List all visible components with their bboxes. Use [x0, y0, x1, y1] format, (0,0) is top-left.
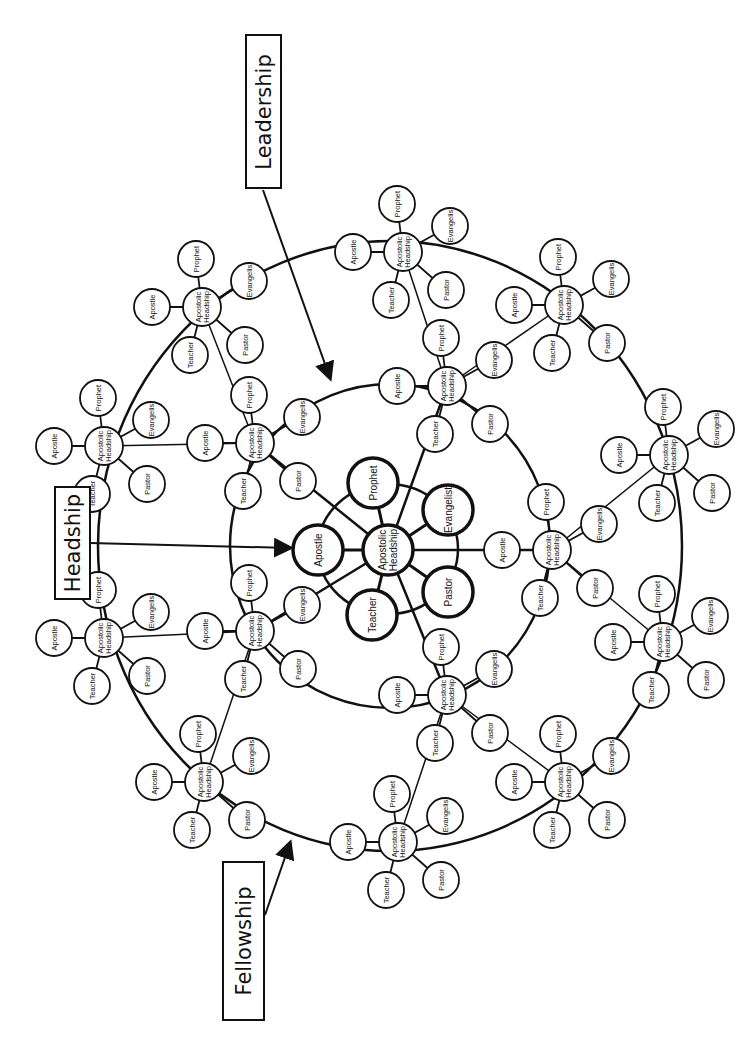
- fellowship-cluster-8-evangelist: Evangelis: [698, 411, 734, 447]
- leadership-cluster-1-hub-label: ApostolicHeadship: [247, 615, 264, 647]
- fellowship-cluster-5-prophet: Prophet: [374, 776, 410, 812]
- leadership-cluster-3-hub-label: ApostolicHeadship: [439, 679, 456, 711]
- fellowship-cluster-2-prophet-label: Prophet: [192, 245, 201, 272]
- fellowship-cluster-5-apostle-label: Apostle: [344, 829, 353, 854]
- fellowship-cluster-3-apostle: Apostle: [136, 764, 172, 800]
- leadership-cluster-4-hub-label: ApostolicHeadship: [544, 534, 561, 566]
- fellowship-cluster-2-prophet: Prophet: [178, 241, 214, 277]
- fellowship-cluster-6-hub: ApostolicHeadship: [545, 286, 583, 324]
- leadership-cluster-0-evangelist-label: Evangelis: [298, 400, 307, 433]
- fellowship-cluster-6-evangelist-label: Evangelis: [607, 262, 616, 295]
- leadership-cluster-1-prophet: Prophet: [231, 565, 267, 601]
- fellowship-cluster-8-prophet-label: Prophet: [659, 393, 668, 420]
- fellowship-cluster-0-evangelist-label: Evangelis: [147, 403, 156, 436]
- fellowship-cluster-2-apostle-label: Apostle: [148, 294, 157, 319]
- fellowship-cluster-2-hub-label: ApostolicHeadship: [194, 291, 211, 323]
- fellowship-cluster-7-teacher-label: Teacher: [548, 816, 557, 843]
- fellowship-cluster-6-pastor-label: Pastor: [603, 332, 612, 354]
- fellowship-cluster-0-prophet: Prophet: [80, 380, 116, 416]
- headship-arrow: [90, 543, 290, 548]
- leadership-cluster-3-prophet: Prophet: [423, 629, 459, 665]
- fellowship-cluster-9-pastor-label: Pastor: [702, 669, 711, 691]
- fellowship-cluster-7-teacher: Teacher: [534, 812, 570, 848]
- fellowship-cluster-2-pastor-label: Pastor: [241, 334, 250, 356]
- fellowship-cluster-3-prophet: Prophet: [180, 716, 216, 752]
- leadership-cluster-0-prophet: Prophet: [231, 377, 267, 413]
- center-evangelist: Evangelist: [423, 485, 473, 535]
- fellowship-cluster-4-teacher: Teacher: [373, 282, 409, 318]
- fellowship-cluster-9-hub-label: ApostolicHeadship: [655, 626, 672, 658]
- fellowship-cluster-7-evangelist: Evangelis: [593, 738, 629, 774]
- leadership-arrow: [263, 190, 330, 378]
- headship-label: Headship: [61, 494, 85, 592]
- fellowship-cluster-7-apostle: Apostle: [496, 764, 532, 800]
- fellowship-cluster-1-hub: ApostolicHeadship: [85, 619, 123, 657]
- leadership-cluster-4-apostle-label: Apostle: [498, 537, 507, 562]
- fellowship-cluster-2-apostle: Apostle: [134, 289, 170, 325]
- fellowship-cluster-6-teacher-label: Teacher: [548, 339, 557, 366]
- fellowship-cluster-7-evangelist-label: Evangelis: [607, 739, 616, 772]
- leadership-cluster-0-hub-label: ApostolicHeadship: [247, 427, 264, 459]
- leadership-cluster-4-pastor: Pastor: [577, 570, 613, 606]
- leadership-cluster-2-hub: ApostolicHeadship: [428, 367, 466, 405]
- center-pastor-label: Pastor: [443, 577, 454, 607]
- fellowship-cluster-9-teacher: Teacher: [633, 672, 669, 708]
- center-prophet: Prophet: [348, 458, 398, 508]
- leadership-cluster-2-pastor-label: Pastor: [486, 413, 495, 435]
- leadership-cluster-3-teacher-label: Teacher: [431, 729, 440, 756]
- leadership-cluster-0-prophet-label: Prophet: [245, 381, 254, 408]
- fellowship-cluster-4-pastor-label: Pastor: [442, 279, 451, 301]
- fellowship-cluster-3-pastor-label: Pastor: [243, 809, 252, 831]
- leadership-callout: Leadership: [246, 35, 330, 378]
- fellowship-cluster-6-teacher: Teacher: [534, 335, 570, 371]
- fellowship-cluster-2-evangelist-label: Evangelis: [245, 264, 254, 297]
- fellowship-cluster-0-evangelist: Evangelis: [133, 402, 169, 438]
- fellowship-cluster-8-pastor-label: Pastor: [708, 482, 717, 504]
- fellowship-cluster-8-teacher-label: Teacher: [653, 489, 662, 516]
- leadership-cluster-0-evangelist: Evangelis: [284, 399, 320, 435]
- leadership-cluster-0-apostle-label: Apostle: [201, 430, 210, 455]
- fellowship-cluster-3-teacher: Teacher: [174, 812, 210, 848]
- fellowship-cluster-3-pastor: Pastor: [229, 802, 265, 838]
- leadership-cluster-2-pastor: Pastor: [472, 406, 508, 442]
- center-apostle: Apostle: [293, 525, 343, 575]
- leadership-cluster-3-pastor-label: Pastor: [486, 722, 495, 744]
- fellowship-cluster-5-prophet-label: Prophet: [388, 780, 397, 807]
- leadership-cluster-3-evangelist: Evangelis: [476, 651, 512, 687]
- fellowship-cluster-0-pastor-label: Pastor: [143, 473, 152, 495]
- leadership-cluster-4-teacher-label: Teacher: [536, 584, 545, 611]
- fellowship-cluster-1-pastor: Pastor: [129, 658, 165, 694]
- fellowship-cluster-8-hub: ApostolicHeadship: [650, 436, 688, 474]
- fellowship-cluster-8-teacher: Teacher: [639, 485, 675, 521]
- fellowship-cluster-8-apostle: Apostle: [601, 437, 637, 473]
- leadership-cluster-4-prophet-label: Prophet: [542, 488, 551, 515]
- fellowship-cluster-6-prophet-label: Prophet: [554, 243, 563, 270]
- fellowship-cluster-3-teacher-label: Teacher: [188, 816, 197, 843]
- fellowship-cluster-1-evangelist: Evangelis: [133, 594, 169, 630]
- leadership-cluster-1-teacher: Teacher: [225, 661, 261, 697]
- center-apostle-label: Apostle: [313, 533, 324, 567]
- fellowship-cluster-3-prophet-label: Prophet: [194, 720, 203, 747]
- fellowship-label: Fellowship: [232, 887, 256, 996]
- leadership-cluster-2-evangelist: Evangelis: [476, 342, 512, 378]
- fellowship-cluster-2-teacher: Teacher: [172, 337, 208, 373]
- fellowship-cluster-9-evangelist: Evangelis: [692, 598, 728, 634]
- fellowship-cluster-4-evangelist: Evangelis: [432, 208, 468, 244]
- fellowship-cluster-1-apostle: Apostle: [36, 620, 72, 656]
- fellowship-cluster-5-apostle: Apostle: [330, 824, 366, 860]
- fellowship-cluster-9-prophet: Prophet: [639, 576, 675, 612]
- fellowship-cluster-0-apostle-label: Apostle: [50, 433, 59, 458]
- fellowship-cluster-5-hub-label: ApostolicHeadship: [390, 826, 407, 858]
- fellowship-cluster-0-hub-label: ApostolicHeadship: [96, 430, 113, 462]
- fellowship-cluster-0-prophet-label: Prophet: [94, 384, 103, 411]
- leadership-cluster-4-apostle: Apostle: [484, 532, 520, 568]
- leadership-cluster-2-teacher-label: Teacher: [431, 420, 440, 447]
- fellowship-cluster-5-teacher: Teacher: [368, 872, 404, 908]
- fellowship-cluster-4-apostle-label: Apostle: [349, 239, 358, 264]
- center-prophet-label: Prophet: [368, 465, 379, 500]
- fellowship-cluster-3-apostle-label: Apostle: [150, 769, 159, 794]
- fellowship-cluster-7-apostle-label: Apostle: [510, 769, 519, 794]
- fellowship-cluster-5-pastor-label: Pastor: [437, 869, 446, 891]
- fellowship-cluster-5-pastor: Pastor: [423, 862, 459, 898]
- fellowship-cluster-4-hub-label: ApostolicHeadship: [395, 236, 412, 268]
